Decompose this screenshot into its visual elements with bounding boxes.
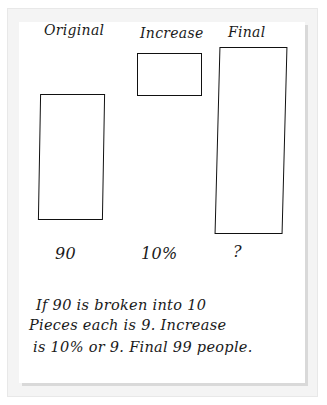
- header-original: Original: [44, 22, 104, 38]
- explanation-line-2: Pieces each is 9. Increase: [29, 317, 226, 333]
- original-bar: [38, 94, 105, 220]
- increase-value: 10%: [141, 244, 177, 263]
- final-value: ?: [233, 242, 242, 261]
- header-increase: Increase: [140, 25, 204, 41]
- header-final: Final: [228, 24, 266, 40]
- explanation-line-3: is 10% or 9. Final 99 people.: [33, 339, 253, 355]
- increase-bar: [137, 53, 202, 96]
- original-value: 90: [55, 244, 76, 263]
- explanation-line-1: If 90 is broken into 10: [36, 297, 206, 313]
- final-bar: [215, 47, 288, 234]
